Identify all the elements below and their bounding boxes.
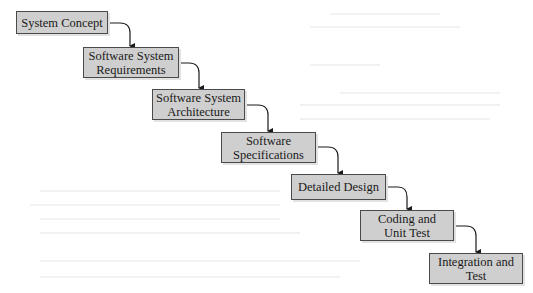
arrow-s3-s4 <box>245 105 268 131</box>
stage-software-specifications: Software Specifications <box>221 132 316 163</box>
arrow-s2-s3 <box>179 63 199 88</box>
stage-software-system-architecture: Software System Architecture <box>152 89 245 120</box>
arrow-s4-s5 <box>316 147 338 173</box>
stage-coding-and-unit-test: Coding and Unit Test <box>360 210 454 241</box>
stage-detailed-design: Detailed Design <box>291 174 386 200</box>
arrow-s6-s7 <box>454 226 476 252</box>
stage-integration-and-test: Integration and Test <box>429 253 523 284</box>
arrow-s5-s6 <box>386 187 407 209</box>
stage-software-system-requirements: Software System Requirements <box>83 47 179 78</box>
arrow-s1-s2 <box>108 23 130 46</box>
stage-system-concept: System Concept <box>16 11 108 34</box>
